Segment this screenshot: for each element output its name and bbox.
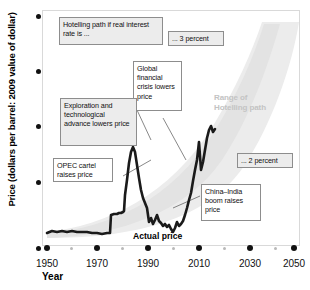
x-tick-label-1950: 1950 bbox=[27, 259, 67, 269]
x-tick-marker-2040 bbox=[274, 247, 277, 250]
actual-price-label: Actual price bbox=[133, 231, 182, 241]
x-tick-marker-2030 bbox=[247, 245, 253, 251]
x-tick-label-2050: 2050 bbox=[274, 259, 310, 269]
x-tick-marker-1950 bbox=[44, 245, 50, 251]
x-tick-marker-1960 bbox=[70, 247, 73, 250]
y-tick-marker-100 bbox=[36, 124, 41, 129]
x-tick-label-1990: 1990 bbox=[128, 259, 168, 269]
x-tick-label-2010: 2010 bbox=[179, 259, 219, 269]
x-tick-label-1970: 1970 bbox=[77, 259, 117, 269]
x-tick-marker-2000 bbox=[172, 247, 175, 250]
x-tick-marker-2050 bbox=[291, 245, 297, 251]
x-tick-marker-2020 bbox=[223, 247, 226, 250]
y-tick-marker-200 bbox=[36, 14, 41, 19]
hotelling-oil-price-chart: Price (dollars per barrel: 2009 value of… bbox=[0, 0, 310, 290]
y-tick-marker-0 bbox=[36, 246, 41, 251]
x-tick-marker-1970 bbox=[94, 245, 100, 251]
y-tick-marker-150 bbox=[36, 69, 41, 74]
callout-china-india-boom: China–India boom raises price bbox=[201, 184, 261, 221]
callout-two-percent: ... 2 percent bbox=[237, 153, 293, 168]
x-tick-marker-2010 bbox=[196, 245, 202, 251]
y-tick-marker-50 bbox=[36, 180, 41, 185]
x-tick-marker-1990 bbox=[145, 245, 151, 251]
y-axis-title: Price (dollars per barrel: 2009 value of… bbox=[6, 0, 17, 233]
callout-three-percent: ... 3 percent bbox=[168, 31, 224, 46]
x-axis-title: Year bbox=[42, 271, 63, 282]
range-of-hotelling-path-label: Range of Hotelling path bbox=[214, 93, 274, 113]
callout-opec-cartel: OPEC cartel raises price bbox=[53, 158, 113, 182]
callout-hotelling-path: Hotelling path if real interest rate is … bbox=[59, 17, 163, 45]
x-tick-label-2030: 2030 bbox=[230, 259, 270, 269]
callout-global-financial-crisis: Global financial crisis lowers price bbox=[133, 61, 182, 111]
callout-exploration-technology: Exploration and technological advance lo… bbox=[60, 98, 137, 146]
x-tick-marker-1980 bbox=[121, 247, 124, 250]
